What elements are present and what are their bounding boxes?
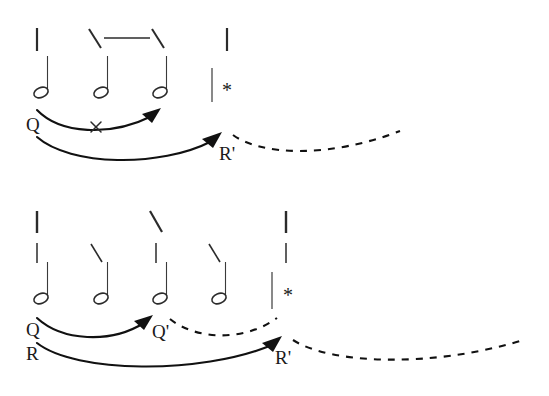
note-half-1 xyxy=(32,262,49,306)
arrow-label-r-bottom: R xyxy=(26,343,39,364)
grid-mark-backslash-3 xyxy=(152,29,164,48)
grid-mark-backslash-4 xyxy=(209,244,220,262)
note-half-3 xyxy=(151,262,168,306)
arrow-label-q-prime-bottom: Q' xyxy=(152,321,169,342)
arrow-r-bottom: R R' xyxy=(26,336,520,368)
notes-bottom xyxy=(32,262,227,306)
note-half-4 xyxy=(210,262,227,306)
note-half-1 xyxy=(32,56,49,100)
grid-mark-backslash-2 xyxy=(91,244,102,262)
arrow-q-bottom: Q Q' xyxy=(26,315,277,342)
note-half-3 xyxy=(151,56,168,100)
arrow-r-top: R' xyxy=(37,131,400,164)
arrow-label-q-bottom: Q xyxy=(26,319,40,340)
grid-marks-top xyxy=(37,28,227,51)
notation-figure-canvas: * Q R' xyxy=(0,0,549,396)
grid-marks-bottom xyxy=(37,211,286,263)
arrow-label-r-prime-top: R' xyxy=(219,143,235,164)
panel-bottom: * Q Q' R R' xyxy=(26,211,520,368)
arrow-dashed-q-bottom xyxy=(170,318,277,335)
panel-top: * Q R' xyxy=(26,28,400,164)
arrow-dashed-r-top xyxy=(233,131,400,151)
arrow-dashed-r-bottom xyxy=(293,340,520,360)
asterisk-bottom: * xyxy=(283,284,293,306)
arrow-q-top: Q xyxy=(26,108,161,135)
note-half-2 xyxy=(92,56,109,100)
arrow-head-q-top xyxy=(142,108,161,123)
grid-mark-backslash-2 xyxy=(89,29,101,48)
asterisk-top: * xyxy=(222,79,232,101)
arrow-label-q-top: Q xyxy=(26,114,40,135)
figure-root: * Q R' xyxy=(0,0,549,396)
note-half-2 xyxy=(92,262,109,306)
notes-top xyxy=(32,56,168,100)
arrow-label-r-prime-bottom: R' xyxy=(275,347,291,368)
grid-mark-backslash-3a xyxy=(150,211,162,232)
